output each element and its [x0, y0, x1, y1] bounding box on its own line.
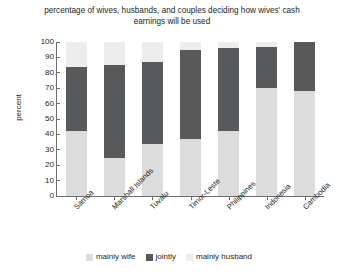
- bar-segment[interactable]: [218, 131, 239, 196]
- bar-stack: [218, 42, 239, 196]
- bar-group[interactable]: [256, 42, 277, 196]
- legend-label: mainly wife: [96, 253, 136, 261]
- y-axis-tick-label: 20: [45, 161, 57, 169]
- bar-group[interactable]: [180, 42, 201, 196]
- y-axis-tick-mark: [57, 72, 60, 73]
- legend-item[interactable]: jointly: [146, 253, 176, 261]
- bar-segment[interactable]: [180, 42, 201, 50]
- y-axis-tick-mark: [57, 88, 60, 89]
- y-axis-tick-label: 70: [45, 84, 57, 92]
- bar-segment[interactable]: [104, 65, 125, 157]
- bar-segment[interactable]: [142, 42, 163, 62]
- chart-container: percentage of wives, husbands, and coupl…: [0, 0, 338, 275]
- bar-segment[interactable]: [294, 91, 315, 196]
- bar-segment[interactable]: [180, 139, 201, 196]
- bar-segment[interactable]: [66, 131, 87, 196]
- bar-segment[interactable]: [218, 48, 239, 131]
- y-axis-tick-mark: [57, 42, 60, 43]
- y-axis-tick-label: 40: [45, 130, 57, 138]
- legend-label: mainly husband: [196, 253, 252, 261]
- legend-item[interactable]: mainly husband: [186, 253, 252, 261]
- bar-segment[interactable]: [180, 50, 201, 139]
- y-axis-tick-mark: [57, 149, 60, 150]
- y-axis-tick-mark: [57, 119, 60, 120]
- bar-group[interactable]: [66, 42, 87, 196]
- bar-stack: [104, 42, 125, 196]
- bar-group[interactable]: [104, 42, 125, 196]
- y-axis-tick-mark: [57, 134, 60, 135]
- bar-segment[interactable]: [218, 42, 239, 48]
- y-axis-tick-mark: [57, 57, 60, 58]
- bars-layer: [57, 42, 324, 196]
- bar-stack: [256, 42, 277, 196]
- y-axis-tick-mark: [57, 165, 60, 166]
- bar-segment[interactable]: [104, 42, 125, 65]
- bar-segment[interactable]: [256, 47, 277, 89]
- plot-area: 1009080706050403020100: [56, 42, 324, 197]
- bar-stack: [294, 42, 315, 196]
- x-axis-labels: SamoaMarshall IslandsTuvaluTimor-LestePh…: [56, 196, 323, 246]
- y-axis-tick-mark: [57, 103, 60, 104]
- y-axis-tick-label: 60: [45, 100, 57, 108]
- chart-title: percentage of wives, husbands, and coupl…: [36, 5, 308, 27]
- bar-group[interactable]: [218, 42, 239, 196]
- legend-swatch-icon: [146, 254, 153, 261]
- bar-segment[interactable]: [294, 42, 315, 91]
- legend-swatch-icon: [86, 254, 93, 261]
- bar-segment[interactable]: [142, 62, 163, 144]
- bar-segment[interactable]: [256, 42, 277, 47]
- bar-segment[interactable]: [66, 67, 87, 132]
- y-axis-tick-label: 80: [45, 69, 57, 77]
- bar-stack: [66, 42, 87, 196]
- bar-segment[interactable]: [104, 158, 125, 197]
- y-axis-title: percent: [14, 78, 23, 138]
- legend-swatch-icon: [186, 254, 193, 261]
- legend-label: jointly: [156, 253, 176, 261]
- y-axis-tick-label: 90: [45, 53, 57, 61]
- bar-group[interactable]: [294, 42, 315, 196]
- bar-stack: [180, 42, 201, 196]
- y-axis-tick-label: 50: [45, 115, 57, 123]
- chart-legend: mainly wifejointlymainly husband: [0, 253, 338, 261]
- y-axis-tick-label: 10: [45, 177, 57, 185]
- legend-item[interactable]: mainly wife: [86, 253, 136, 261]
- bar-segment[interactable]: [256, 88, 277, 196]
- y-axis-tick-label: 30: [45, 146, 57, 154]
- y-axis-tick-label: 100: [41, 38, 57, 46]
- y-axis-tick-mark: [57, 180, 60, 181]
- bar-segment[interactable]: [66, 42, 87, 67]
